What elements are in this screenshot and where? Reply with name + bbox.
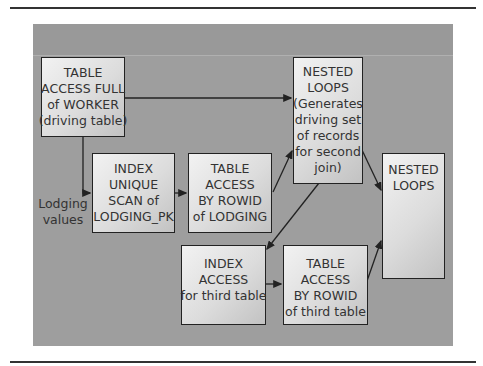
node-line: NESTED — [303, 64, 353, 80]
node-table-access-rowid-third-table: TABLE ACCESS BY ROWID of third table — [283, 245, 368, 325]
node-line: of WORKER — [47, 97, 119, 113]
node-line: for second — [295, 144, 361, 160]
node-line: SCAN of — [108, 193, 159, 209]
node-line: TABLE — [64, 65, 103, 81]
node-line: ACCESS FULL — [41, 81, 125, 97]
node-line: for third table — [181, 288, 267, 304]
node-line: (driving table) — [39, 113, 128, 129]
node-line: ACCESS — [301, 272, 351, 288]
node-line: of records — [297, 128, 359, 144]
edge-label-line: values — [38, 212, 88, 228]
node-index-unique-scan-lodging-pk: INDEX UNIQUE SCAN of LODGING_PK — [92, 153, 175, 233]
node-line: BY ROWID — [294, 288, 358, 304]
node-line: TABLE — [306, 256, 345, 272]
node-table-access-rowid-lodging: TABLE ACCESS BY ROWID of LODGING — [188, 153, 272, 233]
node-line: ACCESS — [199, 272, 249, 288]
node-line: INDEX — [114, 161, 153, 177]
node-line: INDEX — [204, 256, 243, 272]
node-line: LOOPS — [393, 178, 435, 194]
node-line: BY ROWID — [198, 193, 262, 209]
node-index-access-third-table: INDEX ACCESS for third table — [181, 245, 266, 325]
node-nested-loops-first: NESTED LOOPS (Generates driving set of r… — [293, 57, 363, 184]
node-line: driving set — [295, 112, 361, 128]
node-line: ACCESS — [205, 177, 255, 193]
node-line: join) — [314, 160, 341, 176]
node-table-access-full-worker: TABLE ACCESS FULL of WORKER (driving tab… — [41, 57, 125, 137]
edge-label-lodging-values: Lodging values — [38, 196, 88, 228]
node-nested-loops-final: NESTED LOOPS — [382, 153, 445, 279]
node-line: LOOPS — [307, 80, 349, 96]
node-line: of third table — [285, 304, 366, 320]
node-line: LODGING_PK — [93, 209, 173, 225]
edge-label-line: Lodging — [38, 196, 88, 212]
node-line: NESTED — [388, 162, 438, 178]
node-line: (Generates — [293, 96, 363, 112]
node-line: UNIQUE — [109, 177, 158, 193]
node-line: of LODGING — [193, 209, 267, 225]
node-line: TABLE — [211, 161, 250, 177]
